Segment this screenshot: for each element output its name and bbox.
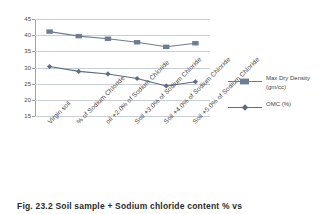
legend-item-max-dry-density[interactable]: Max Dry Density (gm/cc): [228, 74, 328, 91]
y-axis-tick-label: 40: [24, 32, 31, 38]
data-point-marker: [134, 40, 140, 44]
chart-legend: Max Dry Density (gm/cc) OMC (%): [228, 74, 328, 113]
figure-caption-text: Soil sample + Sodium chloride content % …: [55, 201, 242, 211]
gridline: [35, 116, 210, 117]
data-point-marker: [46, 29, 52, 33]
data-point-marker: [105, 71, 110, 76]
legend-item-omc[interactable]: OMC (%): [228, 100, 328, 109]
y-axis-tick-label: 25: [24, 81, 31, 87]
x-axis-labels: Virgin soil% of Sodium Chlorideoil +2.0%…: [0, 118, 331, 198]
figure-container: 15202530354045 Virgin soil% of Sodium Ch…: [0, 0, 331, 214]
figure-caption-number: Fig. 23.2: [17, 201, 53, 211]
legend-label-omc: OMC (%): [266, 100, 328, 109]
y-axis-tick-label: 20: [24, 97, 31, 103]
y-axis-tick-mark: [32, 116, 35, 117]
legend-label-max-dry-density-line1: Max Dry Density: [266, 74, 328, 83]
data-point-marker: [76, 69, 81, 74]
y-axis-tick-label: 30: [24, 65, 31, 71]
data-point-marker: [134, 76, 139, 81]
data-point-marker: [105, 37, 111, 41]
data-point-marker: [192, 41, 198, 45]
figure-caption: Fig. 23.2 Soil sample + Sodium chloride …: [17, 201, 327, 212]
legend-marker-square-icon: [228, 78, 262, 85]
series-line-max-dry-density: [50, 32, 196, 47]
data-point-marker: [76, 34, 82, 38]
legend-label-max-dry-density-line2: (gm/cc): [266, 83, 328, 92]
y-axis-tick-label: 35: [24, 48, 31, 54]
legend-marker-diamond-icon: [228, 104, 262, 111]
y-axis-tick-label: 45: [24, 16, 31, 22]
data-point-marker: [47, 64, 52, 69]
data-point-marker: [163, 45, 169, 49]
